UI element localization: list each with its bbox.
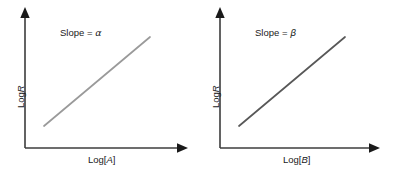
x-axis-label-a-prefix: Log[ [88, 154, 107, 165]
slope-annotation-a: Slope = α [60, 28, 101, 38]
x-axis-label-b-prefix: Log[ [283, 154, 302, 165]
slope-annotation-b: Slope = β [255, 28, 296, 38]
y-axis-arrowhead-b [215, 7, 224, 18]
y-axis-label-a: LogR [16, 85, 26, 108]
trend-line-a [44, 37, 150, 126]
y-axis-label-a-text: Log [15, 92, 26, 108]
x-axis-label-a-suffix: ] [113, 154, 116, 165]
y-axis-arrowhead-a [20, 7, 29, 18]
x-axis-arrowhead-a [177, 143, 188, 152]
log-log-figure: Slope = α LogR Log[A] Slope = β LogR [0, 0, 395, 177]
x-axis-label-b: Log[B] [283, 155, 310, 165]
x-axis-label-a: Log[A] [88, 155, 115, 165]
y-axis-label-a-variable: R [15, 85, 26, 92]
plot-axes-b [198, 0, 395, 177]
slope-annotation-a-prefix: Slope = [60, 27, 95, 38]
x-axis-label-b-suffix: ] [308, 154, 311, 165]
slope-annotation-b-symbol: β [290, 27, 296, 38]
slope-annotation-a-symbol: α [95, 27, 101, 38]
slope-annotation-b-prefix: Slope = [255, 27, 290, 38]
y-axis-label-b-variable: R [210, 85, 221, 92]
plot-panel-a: Slope = α LogR Log[A] [0, 0, 197, 177]
trend-line-b [239, 37, 345, 126]
x-axis-arrowhead-b [369, 143, 380, 152]
y-axis-label-b: LogR [211, 85, 221, 108]
plot-panel-b: Slope = β LogR Log[B] [198, 0, 395, 177]
y-axis-label-b-text: Log [210, 92, 221, 108]
